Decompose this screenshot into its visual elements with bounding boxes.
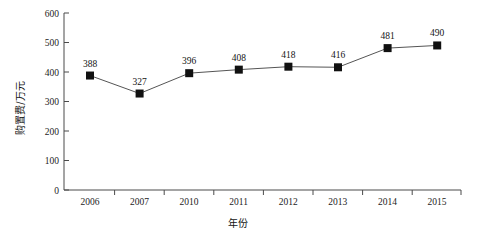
data-point-marker [235,66,243,74]
data-point-value-label: 388 [83,59,98,69]
y-tick-label: 400 [45,68,60,78]
y-tick-label: 500 [45,38,60,48]
data-point-marker [136,90,144,98]
series-markers [86,41,441,97]
data-point-value-label: 490 [430,28,445,38]
series-value-labels: 388327396408418416481490 [83,28,445,86]
data-point-marker [284,63,292,71]
x-tick-label-2013: 2013 [328,197,347,207]
y-tick-label: 200 [45,127,60,137]
caption-sliver [0,234,477,241]
x-tick-label-2015: 2015 [428,197,447,207]
data-point-marker [185,69,193,77]
data-point-value-label: 408 [232,53,247,63]
data-point-marker [384,44,392,52]
x-tick-label-2011: 2011 [229,197,248,207]
data-point-marker [86,72,94,80]
line-chart: 购置费/万元 600 500 400 300 [0,0,477,241]
chart-container: 购置费/万元 600 500 400 300 [0,0,477,241]
data-point-marker [334,63,342,71]
data-point-value-label: 481 [380,31,395,41]
y-tick-label: 600 [45,9,60,19]
x-axis-title: 年份 [228,217,248,229]
data-point-marker [433,41,441,49]
x-axis-ticks: 2006 2007 2010 2011 2012 2013 2014 2015 [81,190,462,207]
data-point-value-label: 327 [132,77,147,87]
y-tick: 400 [45,68,69,78]
data-point-value-label: 416 [331,50,346,60]
y-tick: 0 [54,186,69,196]
x-tick-label-2012: 2012 [279,197,298,207]
x-tick-label-2014: 2014 [378,197,397,207]
y-tick: 600 [45,9,69,19]
data-point-value-label: 418 [281,50,296,60]
y-axis-title: 购置费/万元 [14,81,26,134]
y-tick-label: 300 [45,97,60,107]
y-tick-label: 0 [54,186,59,196]
x-tick-label-2007: 2007 [130,197,149,207]
data-point-value-label: 396 [182,56,197,66]
y-tick-label: 100 [45,156,60,166]
x-tick-label-2010: 2010 [180,197,199,207]
x-tick-label-2006: 2006 [81,197,100,207]
y-tick: 300 [45,97,69,107]
y-axis-ticks: 600 500 400 300 200 100 [45,9,69,196]
y-tick: 100 [45,156,69,166]
y-tick: 200 [45,127,69,137]
y-tick: 500 [45,38,69,48]
